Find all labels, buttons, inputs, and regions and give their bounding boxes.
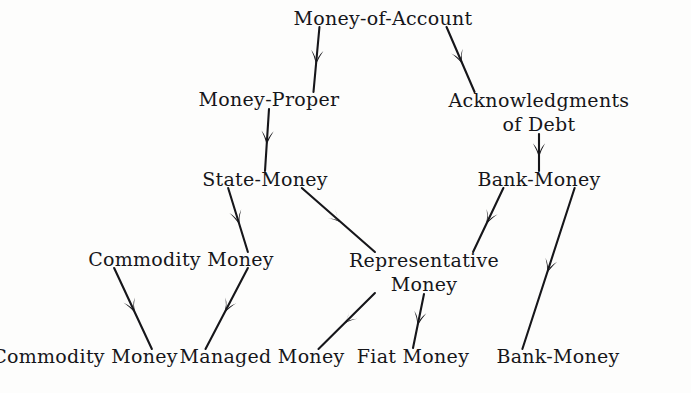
node-label-line: Bank-Money [477,168,600,191]
edge-line [473,188,503,252]
node-representative-money: RepresentativeMoney [349,248,499,296]
edge-moa-acknowledgments [447,27,475,92]
edge-line [228,188,248,252]
node-managed-money: Managed Money [180,345,345,368]
node-label-line: Managed Money [180,345,345,368]
edge-line [522,188,574,349]
node-label-line: Money-Proper [199,88,340,111]
node-label-line: of Debt [449,112,630,136]
edge-acknowledgments-bank [533,134,545,171]
edge-moa-money-proper [311,27,323,92]
node-label-line: Fiat Money [357,345,469,368]
node-label-line: Representative [349,248,499,272]
edge-layer [0,0,691,393]
edge-line [206,268,248,349]
edge-representative-managed [318,293,374,349]
node-fiat-money: Fiat Money [357,345,469,368]
edge-line [413,294,424,348]
node-label-line: Money [349,272,499,296]
edge-line [447,27,475,92]
edge-line [318,293,374,349]
node-state-money: State-Money [202,168,328,191]
node-label-line: Money-of-Account [293,7,472,30]
edge-bank-bank-leaf [522,188,574,349]
node-money-proper: Money-Proper [199,88,340,111]
diagram-canvas: Money-of-AccountMoney-ProperAcknowledgme… [0,0,691,393]
node-label-line: Commodity Money [0,345,178,368]
node-label-line: Acknowledgments [449,88,630,112]
edge-state-commodity [228,188,248,252]
edge-money-proper-state [261,109,273,171]
node-bank-money-leaf: Bank-Money [496,345,619,368]
node-bank-money: Bank-Money [477,168,600,191]
edge-line [302,188,375,252]
node-commodity-money-mid: Commodity Money [88,248,274,271]
edge-bank-representative [473,188,503,252]
node-label-line: State-Money [202,168,328,191]
edge-state-representative [302,188,375,252]
edge-commodity-managed [206,268,248,349]
edge-line [313,27,319,92]
edge-commodity-commodity [114,268,152,349]
node-commodity-money-leaf: Commodity Money [0,345,178,368]
edge-representative-fiat [413,294,426,348]
node-label-line: Commodity Money [88,248,274,271]
node-acknowledgments-of-debt: Acknowledgmentsof Debt [449,88,630,136]
edge-line [114,268,152,349]
node-money-of-account: Money-of-Account [293,7,472,30]
node-label-line: Bank-Money [496,345,619,368]
